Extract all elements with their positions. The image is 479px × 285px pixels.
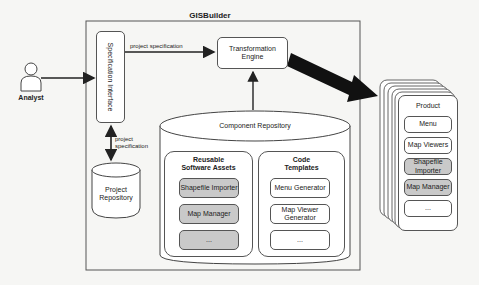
reusable-assets-title-2: Software Assets: [165, 164, 252, 172]
code-templates-title-1: Code: [259, 156, 344, 164]
asset-item[interactable]: Map Manager: [179, 204, 239, 224]
product-item[interactable]: Map Manager: [404, 179, 452, 196]
template-item[interactable]: Map Viewer Generator: [270, 204, 330, 224]
asset-item[interactable]: ...: [179, 230, 239, 250]
edge-label-repo-line1: project: [115, 136, 133, 143]
edge-label-repo-line2: specification: [115, 143, 148, 150]
specification-interface-label: Specification Interface: [106, 43, 114, 112]
template-item[interactable]: Menu Generator: [270, 178, 330, 198]
product-item[interactable]: ...: [404, 200, 452, 217]
transformation-engine-line2: Engine: [242, 53, 264, 61]
transformation-engine-box[interactable]: Transformation Engine: [217, 37, 288, 69]
product-item[interactable]: Menu: [404, 116, 452, 133]
asset-item[interactable]: Shapefile Importer: [179, 178, 239, 198]
code-templates-title-2: Templates: [259, 164, 344, 172]
product-card[interactable]: Product Menu Map Viewers Shapefile Impor…: [398, 95, 458, 231]
project-repository-line2: Repository: [99, 194, 132, 202]
component-repository-label: Component Repository: [200, 122, 310, 130]
reusable-assets-title-1: Reusable: [165, 156, 252, 164]
product-item[interactable]: Shapefile Importer: [404, 158, 452, 175]
product-item[interactable]: Map Viewers: [404, 137, 452, 154]
template-item[interactable]: ...: [270, 230, 330, 250]
edge-label-spec-to-engine: project specification: [130, 43, 210, 50]
big-arrow-to-product: [287, 53, 378, 102]
specification-interface-box[interactable]: Specification Interface: [96, 31, 125, 123]
code-templates-group: Code Templates Menu Generator Map Viewer…: [258, 151, 345, 257]
analyst-label: Analyst: [10, 94, 52, 102]
reusable-assets-group: Reusable Software Assets Shapefile Impor…: [164, 151, 253, 257]
product-title: Product: [399, 102, 457, 110]
transformation-engine-line1: Transformation: [229, 45, 276, 53]
analyst-icon: [21, 63, 41, 91]
project-repository-line1: Project: [105, 186, 127, 194]
gisbuilder-title: GISBuilder: [170, 11, 250, 20]
project-repository[interactable]: Project Repository: [92, 180, 140, 208]
